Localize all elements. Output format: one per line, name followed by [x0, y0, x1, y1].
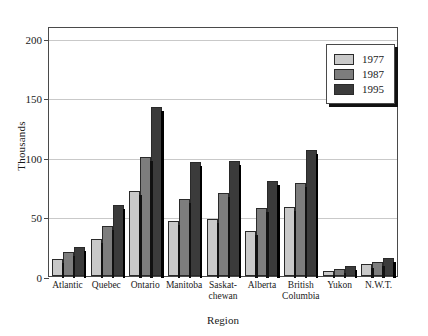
bar-group — [165, 28, 204, 276]
bar-group — [204, 28, 243, 276]
bar — [256, 208, 267, 276]
bar-group — [281, 28, 320, 276]
bar — [151, 107, 162, 276]
bar — [345, 266, 356, 276]
legend-item[interactable]: 1977 — [334, 52, 384, 66]
bar — [102, 226, 113, 276]
bar — [129, 191, 140, 276]
x-axis-tick-label-line: Manitoba — [165, 280, 204, 291]
x-axis-tick-label: Saskat-chewan — [204, 280, 243, 301]
bar — [190, 162, 201, 276]
x-axis-tick-label: Alberta — [242, 280, 281, 301]
bar — [229, 161, 240, 276]
x-axis-tick-label-line: Ontario — [126, 280, 165, 291]
bar-group — [242, 28, 281, 276]
x-axis-tick-label: Quebec — [87, 280, 126, 301]
x-axis-tick-label-line: Atlantic — [48, 280, 87, 291]
x-axis-tick-label: N.W.T. — [359, 280, 398, 301]
bar — [334, 269, 345, 276]
legend-swatch — [334, 54, 354, 65]
bar — [179, 199, 190, 276]
bar — [284, 207, 295, 276]
bar — [218, 193, 229, 276]
bar — [52, 259, 63, 276]
bar — [361, 264, 372, 276]
bar — [207, 219, 218, 276]
legend-item[interactable]: 1987 — [334, 67, 384, 81]
x-axis-tick-label-line: N.W.T. — [359, 280, 398, 291]
bar — [91, 239, 102, 276]
bar — [140, 157, 151, 276]
legend-swatch — [334, 84, 354, 95]
legend-label: 1995 — [362, 83, 384, 95]
legend: 197719871995 — [326, 44, 395, 104]
bar — [267, 181, 278, 276]
bar — [323, 271, 334, 276]
bar — [113, 205, 124, 276]
x-axis-tick-label-line: Alberta — [242, 280, 281, 291]
y-axis-tick-label: 100 — [26, 153, 50, 165]
x-axis-tick-label: Atlantic — [48, 280, 87, 301]
x-axis-tick-labels: AtlanticQuebecOntarioManitobaSaskat-chew… — [48, 280, 398, 301]
bar — [372, 262, 383, 276]
bar — [63, 252, 74, 276]
y-axis-tick-label: 50 — [31, 212, 49, 224]
x-axis-tick-label-line: Saskat- — [204, 280, 243, 291]
x-axis-title: Region — [48, 314, 398, 326]
bar — [74, 247, 85, 276]
x-axis-tick-label-line: Quebec — [87, 280, 126, 291]
x-axis-tick-label: BritishColumbia — [281, 280, 320, 301]
bar-group — [88, 28, 127, 276]
bar — [168, 221, 179, 276]
bar — [306, 150, 317, 276]
x-axis-tick-label-line: Columbia — [281, 291, 320, 302]
bar — [383, 258, 394, 276]
y-axis-tick-label: 200 — [26, 34, 50, 46]
x-axis-tick-label: Yukon — [320, 280, 359, 301]
x-axis-tick-label-line: British — [281, 280, 320, 291]
y-axis-tick-label: 150 — [26, 93, 50, 105]
legend-label: 1987 — [362, 68, 384, 80]
x-axis-tick-label-line: Yukon — [320, 280, 359, 291]
bar — [295, 183, 306, 276]
bar-group — [126, 28, 165, 276]
x-axis-tick-label: Manitoba — [165, 280, 204, 301]
legend-swatch — [334, 69, 354, 80]
legend-item[interactable]: 1995 — [334, 82, 384, 96]
bar-chart: Thousands 050100150200 AtlanticQuebecOnt… — [0, 0, 428, 336]
y-axis-title: Thousands — [15, 101, 27, 191]
x-axis-tick-label-line: chewan — [204, 291, 243, 302]
bar — [245, 231, 256, 276]
legend-label: 1977 — [362, 53, 384, 65]
x-axis-tick-label: Ontario — [126, 280, 165, 301]
bar-group — [49, 28, 88, 276]
